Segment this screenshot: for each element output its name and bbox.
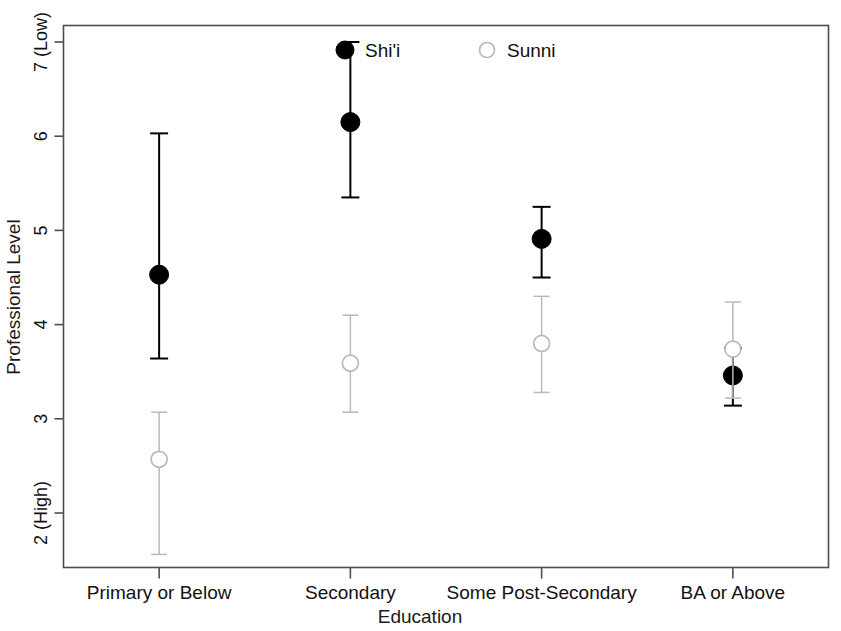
marker-open-circle bbox=[151, 451, 167, 467]
y-axis-tick-label: 7 (Low) bbox=[31, 12, 51, 72]
marker-filled-circle bbox=[532, 229, 551, 248]
y-axis-tick-label: 2 (High) bbox=[31, 481, 51, 545]
y-axis-tick-label: 3 bbox=[31, 414, 51, 424]
y-axis-title: Professional Level bbox=[3, 219, 24, 374]
marker-open-circle bbox=[534, 335, 550, 351]
legend-label: Sunni bbox=[507, 40, 556, 61]
x-axis-category-label: BA or Above bbox=[681, 582, 786, 603]
professional-level-by-education-chart: 2 (High)34567 (Low) Primary or BelowSeco… bbox=[0, 0, 841, 631]
chart-background bbox=[0, 0, 841, 631]
marker-filled-circle bbox=[150, 265, 169, 284]
x-axis-title: Education bbox=[378, 606, 463, 627]
y-axis-tick-label: 4 bbox=[31, 320, 51, 330]
marker-open-circle bbox=[342, 355, 358, 371]
y-axis-tick-label: 5 bbox=[31, 225, 51, 235]
marker-open-circle bbox=[725, 341, 741, 357]
legend-label: Shi'i bbox=[365, 40, 400, 61]
marker-filled-circle bbox=[341, 113, 360, 132]
legend-marker-shii bbox=[336, 41, 354, 59]
legend-marker-sunni bbox=[480, 43, 495, 58]
y-axis-tick-label: 6 bbox=[31, 131, 51, 141]
x-axis-category-label: Some Post-Secondary bbox=[447, 582, 638, 603]
x-axis-category-label: Primary or Below bbox=[87, 582, 232, 603]
x-axis-category-label: Secondary bbox=[305, 582, 396, 603]
